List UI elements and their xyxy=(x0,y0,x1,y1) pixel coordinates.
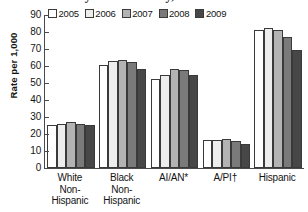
y-axis-tick-mark xyxy=(45,32,49,33)
bar xyxy=(76,124,86,168)
bar xyxy=(264,28,274,168)
y-axis-tick-mark xyxy=(45,134,49,135)
y-axis-tick-label: 20 xyxy=(30,129,45,139)
bar xyxy=(241,144,251,168)
y-axis-tick-mark xyxy=(45,151,49,152)
x-axis-category-label: A/PI† xyxy=(199,172,251,212)
x-axis-category-label-line: Non- xyxy=(96,184,148,196)
bar xyxy=(151,79,161,168)
bar xyxy=(283,37,293,168)
bar-groups xyxy=(45,15,304,168)
bar xyxy=(160,75,170,168)
x-axis-category-label-line: Non- xyxy=(44,184,96,196)
x-axis-category-label-line: White xyxy=(44,172,96,184)
bar-group xyxy=(200,15,252,168)
bar xyxy=(203,140,213,168)
bar xyxy=(127,62,137,168)
bar xyxy=(273,30,283,168)
y-axis-tick-mark xyxy=(45,49,49,50)
y-axis-tick-label: 30 xyxy=(30,112,45,122)
x-axis-category-label-line: Hispanic xyxy=(251,172,303,184)
bar xyxy=(85,125,95,168)
bar-group xyxy=(149,15,201,168)
x-axis-category-label-line: Hispanic xyxy=(44,195,96,207)
y-axis-tick-mark xyxy=(45,66,49,67)
x-axis-labels: WhiteNon-HispanicBlackNon-HispanicAI/AN*… xyxy=(44,172,303,212)
bar xyxy=(222,139,232,168)
y-axis-tick-label: 10 xyxy=(30,146,45,156)
y-axis-tick-label: 60 xyxy=(30,61,45,71)
bar xyxy=(254,30,264,168)
y-axis-tick-label: 40 xyxy=(30,95,45,105)
bar xyxy=(108,61,118,168)
bar xyxy=(189,75,199,168)
y-axis-tick-label: 70 xyxy=(30,44,45,54)
x-axis-category-label: Hispanic xyxy=(251,172,303,212)
bar xyxy=(47,125,57,168)
bar-chart: by Race/Ethnicity, 2005-2009 Rate per 1,… xyxy=(0,0,308,212)
y-axis-tick-label: 90 xyxy=(30,10,45,20)
y-axis-tick-mark xyxy=(45,15,49,16)
y-axis-tick-label: 80 xyxy=(30,27,45,37)
bar xyxy=(231,141,241,168)
bar xyxy=(118,60,128,168)
x-axis-category-label: BlackNon-Hispanic xyxy=(96,172,148,212)
x-axis-category-label-line: AI/AN* xyxy=(148,172,200,184)
x-axis-category-label-line: A/PI† xyxy=(199,172,251,184)
y-axis-tick-mark xyxy=(45,83,49,84)
bar-group xyxy=(252,15,304,168)
x-axis-category-label: WhiteNon-Hispanic xyxy=(44,172,96,212)
bar xyxy=(99,65,109,168)
bar xyxy=(170,69,180,168)
y-axis-tick-mark xyxy=(45,100,49,101)
plot-area: 0102030405060708090 xyxy=(44,15,304,169)
bar xyxy=(66,122,76,168)
y-axis-tick-mark xyxy=(45,168,49,169)
bar xyxy=(57,124,67,168)
x-axis-category-label: AI/AN* xyxy=(148,172,200,212)
bar xyxy=(212,140,222,168)
x-axis-category-label-line: Hispanic xyxy=(96,195,148,207)
y-axis-tick-label: 50 xyxy=(30,78,45,88)
x-axis-category-label-line: Black xyxy=(96,172,148,184)
y-axis-tick-mark xyxy=(45,117,49,118)
bar-group xyxy=(45,15,97,168)
bar xyxy=(179,70,189,168)
bar xyxy=(292,50,302,168)
bar-group xyxy=(97,15,149,168)
chart-title: by Race/Ethnicity, 2005-2009 xyxy=(0,0,308,4)
y-axis-title: Rate per 1,000 xyxy=(8,6,19,126)
bar xyxy=(137,69,147,168)
